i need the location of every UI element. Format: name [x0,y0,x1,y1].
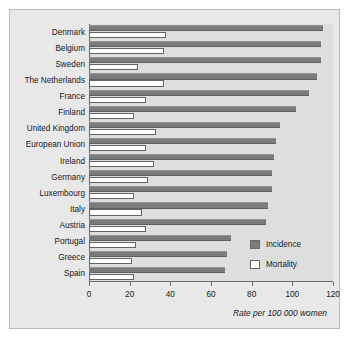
bar-incidence-sweden [89,57,321,63]
category-label-luxembourg: Luxembourg [39,186,85,202]
bar-mortality-germany [89,177,148,183]
bar-row: Austria [89,218,333,234]
category-label-ireland: Ireland [60,154,85,170]
bar-row: Germany [89,170,333,186]
bar-mortality-italy [89,209,142,215]
bar-incidence-united-kingdom [89,122,280,128]
bar-mortality-finland [89,113,134,119]
bar-row: European Union [89,137,333,153]
category-label-portugal: Portugal [55,234,86,250]
bar-mortality-belgium [89,48,164,54]
bar-mortality-austria [89,226,146,232]
bar-incidence-european-union [89,138,276,144]
chart-legend: Incidence Mortality [250,237,301,277]
x-tick [333,282,334,286]
x-tick [292,282,293,286]
category-label-spain: Spain [64,266,85,282]
bar-incidence-greece [89,251,227,257]
bar-mortality-united-kingdom [89,129,156,135]
bar-incidence-luxembourg [89,186,272,192]
bar-incidence-germany [89,170,272,176]
bar-row: The Netherlands [89,73,333,89]
bar-mortality-greece [89,258,132,264]
bar-incidence-denmark [89,25,323,31]
bar-mortality-european-union [89,145,146,151]
category-label-united-kingdom: United Kingdom [27,121,85,137]
bar-mortality-ireland [89,161,154,167]
bar-incidence-france [89,90,309,96]
x-tick [211,282,212,286]
chart-figure: DenmarkBelgiumSwedenThe NetherlandsFranc… [9,9,340,329]
bar-mortality-sweden [89,64,138,70]
bar-incidence-austria [89,219,266,225]
category-label-the-netherlands: The Netherlands [24,73,85,89]
bar-row: United Kingdom [89,121,333,137]
legend-label-incidence: Incidence [266,240,301,249]
bar-incidence-spain [89,267,225,273]
legend-item-mortality: Mortality [250,257,301,272]
x-tick-label-80: 80 [247,290,256,299]
bar-mortality-luxembourg [89,193,134,199]
category-label-belgium: Belgium [55,41,85,57]
category-label-france: France [60,89,85,105]
bar-incidence-the-netherlands [89,73,317,79]
category-label-finland: Finland [58,105,85,121]
bar-mortality-portugal [89,242,136,248]
chart-footnote: Rate per 100 000 women [233,308,327,318]
bar-mortality-spain [89,274,134,280]
x-tick-label-0: 0 [87,290,92,299]
legend-label-mortality: Mortality [266,260,297,269]
mortality-swatch-icon [250,260,260,269]
x-tick-label-60: 60 [206,290,215,299]
incidence-swatch-icon [250,240,260,249]
bar-incidence-italy [89,202,268,208]
category-label-greece: Greece [58,250,85,266]
category-label-austria: Austria [60,218,85,234]
bar-row: France [89,89,333,105]
x-tick [89,282,90,286]
bar-row: Finland [89,105,333,121]
x-tick [170,282,171,286]
x-tick [252,282,253,286]
category-label-italy: Italy [70,202,85,218]
category-label-sweden: Sweden [55,57,85,73]
bar-row: Sweden [89,57,333,73]
bar-row: Denmark [89,25,333,41]
bar-row: Italy [89,202,333,218]
bar-incidence-finland [89,106,296,112]
bar-row: Luxembourg [89,186,333,202]
x-tick-label-20: 20 [125,290,134,299]
category-label-denmark: Denmark [52,25,85,41]
category-label-european-union: European Union [26,137,85,153]
bar-row: Belgium [89,41,333,57]
category-label-germany: Germany [51,170,85,186]
x-tick [130,282,131,286]
legend-item-incidence: Incidence [250,237,301,252]
bar-incidence-portugal [89,235,231,241]
bar-row: Ireland [89,154,333,170]
x-tick-label-120: 120 [326,290,340,299]
bar-mortality-france [89,97,146,103]
bar-mortality-denmark [89,32,166,38]
x-tick-label-40: 40 [166,290,175,299]
bar-incidence-ireland [89,154,274,160]
x-tick-label-100: 100 [285,290,299,299]
bar-mortality-the-netherlands [89,80,164,86]
bar-incidence-belgium [89,41,321,47]
